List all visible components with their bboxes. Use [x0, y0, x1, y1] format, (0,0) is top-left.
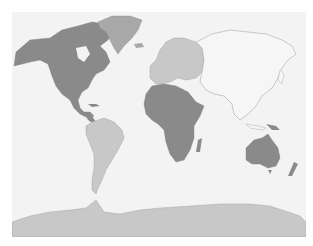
region-australia[interactable]	[246, 134, 280, 168]
region-new-zealand[interactable]	[288, 162, 298, 176]
region-tasmania[interactable]	[268, 170, 272, 174]
region-antarctica[interactable]	[12, 200, 306, 237]
region-indonesia[interactable]	[246, 124, 266, 130]
caribbean-islands	[88, 104, 100, 107]
world-map	[12, 12, 306, 237]
region-north-america[interactable]	[14, 22, 112, 118]
region-papua-new-guinea[interactable]	[266, 124, 280, 130]
region-africa[interactable]	[144, 84, 204, 162]
region-europe[interactable]	[150, 38, 204, 84]
region-madagascar[interactable]	[196, 138, 202, 152]
region-iceland[interactable]	[134, 43, 144, 48]
region-south-america[interactable]	[86, 118, 124, 194]
